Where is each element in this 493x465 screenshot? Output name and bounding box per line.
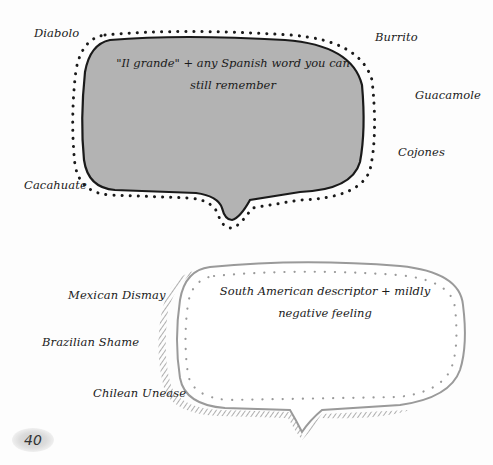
phrase-chilean-unease: Chilean Unease xyxy=(93,386,186,400)
page-number: 40 xyxy=(12,428,54,452)
bottom-bubble-prompt-line1: South American descriptor + mildly xyxy=(205,280,445,302)
phrase-mexican-dismay: Mexican Dismay xyxy=(68,288,166,302)
workbook-page: "Il grande" + any Spanish word you can s… xyxy=(0,0,493,465)
bottom-bubble-prompt: South American descriptor + mildly negat… xyxy=(205,280,445,324)
phrase-brazilian-shame: Brazilian Shame xyxy=(42,335,139,349)
bottom-bubble-prompt-line2: negative feeling xyxy=(205,302,445,324)
speech-bubble-bottom xyxy=(0,0,493,465)
